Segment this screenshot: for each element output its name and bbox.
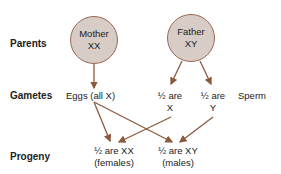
sperm-label: Sperm: [238, 90, 266, 101]
males-line2: (males): [148, 157, 208, 168]
father-name: Father: [177, 26, 204, 38]
males-line1: ½ are XY: [148, 145, 208, 156]
arrow-x-to-xx: [119, 117, 171, 142]
eggs-label: Eggs (all X): [66, 90, 115, 101]
females-line1: ½ are XX: [84, 145, 144, 156]
arrow-father-to-x: [171, 61, 182, 84]
row-label-progeny: Progeny: [10, 151, 50, 162]
arrow-father-to-y: [200, 61, 211, 84]
half-y-line2: Y: [198, 102, 228, 113]
father-genotype: XY: [185, 38, 198, 50]
father-node: Father XY: [167, 14, 215, 62]
mother-node: Mother XX: [70, 16, 118, 64]
half-y-line1: ½ are: [198, 90, 228, 101]
mother-name: Mother: [79, 28, 109, 40]
row-label-gametes: Gametes: [10, 90, 52, 101]
females-line2: (females): [84, 157, 144, 168]
half-x-line1: ½ are: [155, 90, 185, 101]
arrow-y-to-xy: [180, 117, 213, 142]
row-label-parents: Parents: [10, 38, 47, 49]
arrow-eggs-to-xx: [94, 102, 110, 141]
half-x-line2: X: [155, 102, 185, 113]
mother-genotype: XX: [88, 40, 101, 52]
